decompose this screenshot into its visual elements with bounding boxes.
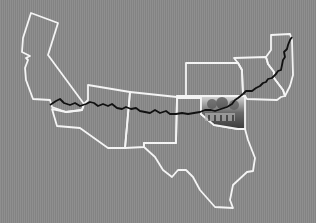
- state-arizona[interactable]: [52, 85, 130, 148]
- state-new-mexico[interactable]: [125, 92, 177, 148]
- route-map: Route 66 states: [0, 0, 316, 223]
- state-kansas[interactable]: [186, 63, 243, 96]
- map-svg: [0, 0, 316, 223]
- state-missouri[interactable]: [234, 57, 285, 100]
- state-california[interactable]: [22, 13, 84, 112]
